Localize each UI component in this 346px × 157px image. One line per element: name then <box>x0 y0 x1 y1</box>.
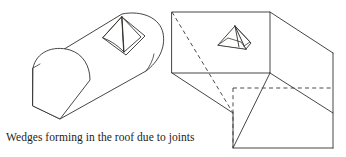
figure-caption: Wedges forming in the roof due to joints <box>6 131 195 144</box>
box-right-side-edge <box>270 73 333 113</box>
box-floor-diagonal-edge <box>233 73 270 148</box>
box-top-receding-edge <box>270 12 333 53</box>
figure-container: Wedges forming in the roof due to joints <box>0 0 346 157</box>
rectangular-tunnel-diagram <box>172 12 333 148</box>
tunnel-end-cap <box>33 48 90 119</box>
arched-tunnel-diagram <box>33 13 164 119</box>
box-left-wall-edge <box>172 73 233 113</box>
